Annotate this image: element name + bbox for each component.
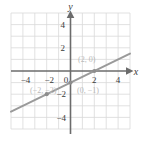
coordinate-plane-figure: −4 −2 0 2 4 4 2 −2 −4 y x (−2, −2) (0, −… <box>0 0 141 141</box>
y-axis-label: y <box>67 1 73 12</box>
graph-svg: −4 −2 0 2 4 4 2 −2 −4 y x (−2, −2) (0, −… <box>0 0 141 141</box>
x-tick-label-4: 4 <box>116 75 121 85</box>
data-point-0-neg1 <box>68 81 72 85</box>
y-tick-label--4: −4 <box>56 113 66 123</box>
x-tick-label--2: −2 <box>45 75 55 85</box>
y-axis-arrow <box>67 11 75 19</box>
x-tick-label--4: −4 <box>21 75 31 85</box>
data-point-2-0 <box>92 69 96 73</box>
point-label-2-0: (2, 0) <box>78 55 96 64</box>
y-tick-label-2: 2 <box>61 43 66 53</box>
y-tick-label-4: 4 <box>61 20 66 30</box>
point-label-neg2-neg2: (−2, −2) <box>30 86 57 95</box>
y-tick-label--2: −2 <box>56 89 66 99</box>
x-axis-label: x <box>133 66 139 77</box>
point-label-0-neg1: (0, −1) <box>77 86 99 95</box>
x-tick-label-2: 2 <box>92 75 97 85</box>
x-tick-label-0: 0 <box>64 75 69 85</box>
